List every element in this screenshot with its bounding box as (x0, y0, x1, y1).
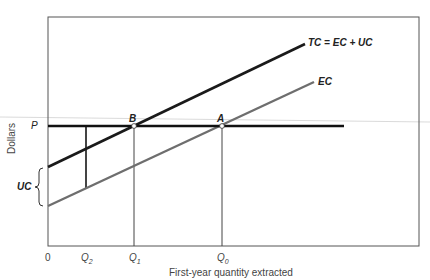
price-label: P (31, 121, 38, 131)
plot-frame (48, 17, 419, 246)
uc-label: UC (17, 182, 31, 192)
x-tick-q2-main: Q (81, 252, 89, 263)
point-a-marker (220, 124, 225, 129)
x-tick-q0-main: Q (217, 252, 225, 263)
tc-curve-label: TC = EC + UC (308, 38, 372, 48)
x-axis-label: First-year quantity extracted (169, 268, 293, 278)
origin-label: 0 (45, 253, 51, 263)
tc-curve (48, 44, 305, 167)
x-tick-q2: Q2 (81, 253, 93, 265)
point-a-label: A (217, 114, 224, 124)
ec-curve-label: EC (318, 77, 332, 87)
y-axis-label: Dollars (7, 123, 17, 154)
x-tick-q2-sub: 2 (89, 258, 93, 265)
uc-brace (35, 168, 43, 206)
point-b-label: B (129, 114, 136, 124)
x-tick-q0: Q0 (217, 253, 229, 265)
x-tick-q0-sub: 0 (225, 258, 229, 265)
ec-curve (48, 82, 314, 206)
stray-line (0, 117, 430, 122)
x-tick-q1-main: Q (129, 252, 137, 263)
x-tick-q1: Q1 (129, 253, 141, 265)
x-tick-q1-sub: 1 (137, 258, 141, 265)
point-b-marker (132, 124, 137, 129)
